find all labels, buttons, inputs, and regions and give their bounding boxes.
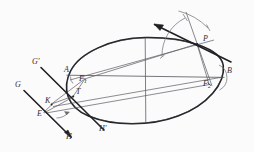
label-E: E <box>37 110 42 118</box>
ray-Gprime-to-Hprime <box>41 68 104 131</box>
tangent-arrowhead-icon <box>154 24 164 31</box>
arc-tick-3 <box>207 25 211 32</box>
angle-arc-at-A <box>70 77 73 84</box>
minor-axis-line <box>145 38 146 123</box>
label-B: B <box>227 67 232 75</box>
label-K: K <box>45 97 50 105</box>
label-F1-subscript: 1 <box>84 78 87 84</box>
label-G-prime: G' <box>32 58 40 66</box>
chord-A-to-P <box>70 40 214 80</box>
label-F2: F2 <box>203 80 211 88</box>
label-H-prime: H' <box>99 125 107 133</box>
label-P: P <box>203 35 208 43</box>
focal-ray-F1-P <box>85 44 198 79</box>
label-A: A <box>64 66 69 74</box>
label-G: G <box>15 81 21 89</box>
figure-canvas <box>0 0 254 152</box>
point-T-marker <box>72 95 74 97</box>
label-F2-subscript: 2 <box>208 83 211 89</box>
point-K-marker <box>51 103 53 105</box>
ellipse-construction-figure: A B P T K E G G' H H' F1 F2 <box>0 0 254 152</box>
angle-arc-K-arrowhead-icon <box>65 112 70 116</box>
label-F1: F1 <box>79 75 87 83</box>
point-P-marker <box>196 43 198 45</box>
label-H: H <box>66 133 72 141</box>
label-T: T <box>76 88 80 96</box>
